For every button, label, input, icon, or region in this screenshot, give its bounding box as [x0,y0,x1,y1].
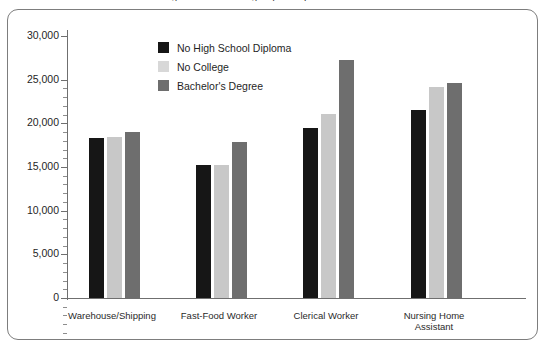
bar [339,60,354,298]
x-axis-line [61,298,526,299]
y-axis-tick-label: 0 [9,292,59,303]
bar-group [303,36,358,298]
x-axis-category-label: Nursing HomeAssistant [369,310,499,332]
legend-item: Bachelor's Degree [158,76,291,95]
bar [232,142,247,298]
bar-group [411,36,466,298]
legend-item-label: Bachelor's Degree [177,80,263,92]
legend-item-label: No College [177,61,229,73]
chart-title: Average Annual Earnings by Occupation an… [0,0,547,1]
y-axis-tick-label: 15,000 [9,161,59,172]
y-axis-tick-label: 5,000 [9,248,59,259]
bar [411,110,426,298]
y-axis-tick-label: 30,000 [9,30,59,41]
y-axis-tick-label: 10,000 [9,205,59,216]
bar-group [89,36,144,298]
legend-swatch-icon [158,61,169,72]
legend-item: No High School Diploma [158,38,291,57]
bar [214,165,229,298]
y-tick-minor [63,324,67,325]
bar [303,128,318,298]
bar [321,114,336,298]
y-tick-major [61,298,67,299]
bar [196,165,211,298]
bar [107,137,122,298]
bar [125,132,140,298]
bar [447,83,462,298]
bar [89,138,104,298]
plot-area [67,36,522,298]
chart-legend: No High School DiplomaNo CollegeBachelor… [158,38,291,95]
legend-item: No College [158,57,291,76]
y-axis-tick-label: 20,000 [9,117,59,128]
legend-swatch-icon [158,42,169,53]
legend-swatch-icon [158,80,169,91]
y-tick-minor [63,307,67,308]
y-axis-labels: 30,00025,00020,00015,00010,0005,0000 [7,0,59,348]
bar [429,87,444,298]
category-label-line: Nursing Home [369,310,499,321]
y-tick-minor [63,333,67,334]
y-axis-tick-label: 25,000 [9,74,59,85]
legend-item-label: No High School Diploma [177,42,291,54]
category-label-line: Assistant [369,321,499,332]
